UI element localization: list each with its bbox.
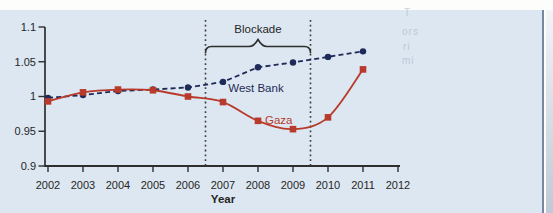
- x-tick-label: 2008: [246, 179, 270, 191]
- gaza-marker: [290, 126, 297, 133]
- gaza-marker: [255, 118, 262, 125]
- x-tick-label: 2004: [106, 179, 130, 191]
- blockade-label: Blockade: [234, 23, 281, 35]
- blockade-brace: [206, 40, 311, 54]
- y-tick-label: 0.95: [15, 125, 36, 137]
- gaza-marker: [220, 99, 227, 106]
- gaza-marker: [185, 93, 192, 100]
- gaza-marker: [115, 86, 122, 93]
- x-tick-label: 2010: [316, 179, 340, 191]
- y-tick-label: 1.1: [21, 21, 36, 33]
- gaza-marker: [150, 87, 157, 94]
- x-tick-label: 2002: [36, 179, 60, 191]
- print-bleed-artifact: ri: [403, 42, 411, 52]
- x-tick-label: 2005: [141, 179, 165, 191]
- west-bank-marker: [185, 84, 191, 90]
- west-bank-marker: [290, 59, 296, 65]
- west-bank-marker: [325, 54, 331, 60]
- print-bleed-artifact: T: [404, 8, 411, 18]
- gaza-marker: [80, 89, 87, 96]
- gaza-marker: [360, 66, 367, 73]
- west-bank-marker: [360, 48, 366, 54]
- y-tick-label: 0.9: [21, 160, 36, 172]
- print-bleed-artifact: ors: [402, 27, 419, 37]
- x-axis-title: Year: [211, 193, 236, 205]
- gaza-label: Gaza: [265, 114, 293, 126]
- gaza-marker: [45, 98, 52, 105]
- x-tick-label: 2009: [281, 179, 305, 191]
- print-bleed-artifact: mi: [402, 56, 415, 66]
- gaza-marker: [325, 114, 332, 121]
- x-tick-label: 2006: [176, 179, 200, 191]
- x-tick-label: 2012: [386, 179, 410, 191]
- chart-svg: 0.90.9511.051.12002200320042005200620072…: [0, 0, 553, 213]
- y-tick-label: 1.05: [15, 56, 36, 68]
- y-tick-label: 1: [30, 90, 36, 102]
- x-tick-label: 2007: [211, 179, 235, 191]
- west-bank-label: West Bank: [228, 82, 284, 94]
- west-bank-marker: [220, 79, 226, 85]
- west-bank-marker: [255, 64, 261, 70]
- x-tick-label: 2011: [351, 179, 375, 191]
- x-tick-label: 2003: [71, 179, 95, 191]
